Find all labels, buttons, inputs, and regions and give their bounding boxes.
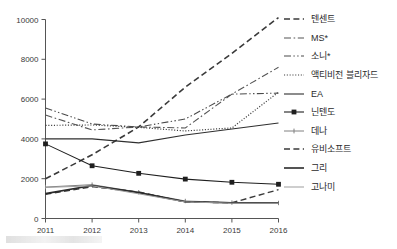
series-7	[46, 187, 279, 203]
legend-swatch-icon	[284, 144, 304, 154]
legend-swatch-icon	[284, 107, 304, 117]
series-marker	[183, 177, 188, 182]
series-3	[46, 92, 279, 131]
legend-label: 소니*	[311, 51, 331, 61]
legend-swatch-icon	[284, 163, 304, 173]
series-marker	[136, 171, 141, 176]
y-tick-label: 4000	[21, 135, 39, 144]
x-tick-label: 2015	[223, 226, 241, 235]
series-line	[46, 18, 279, 179]
legend-swatch-icon	[284, 51, 304, 61]
legend-label: EA	[311, 89, 323, 99]
legend-label: MS*	[311, 33, 328, 43]
y-tick-label: 2000	[21, 175, 39, 184]
legend-swatch-icon	[284, 126, 304, 136]
series-4	[46, 123, 279, 143]
data-series-group	[43, 18, 281, 206]
y-tick-label: 0	[34, 215, 39, 224]
x-tick-label: 2011	[37, 226, 55, 235]
legend-swatch-icon	[284, 70, 304, 80]
series-0	[46, 18, 279, 179]
y-tick-label: 10000	[16, 16, 39, 25]
series-marker	[90, 163, 95, 168]
y-axis: 1000080006000400020000	[16, 16, 45, 224]
legend-item-0[interactable]: 텐센트	[284, 10, 394, 29]
legend-item-8[interactable]: 그리	[284, 159, 394, 178]
legend-label: 유비소프트	[311, 144, 351, 154]
y-tick-label: 8000	[21, 55, 39, 64]
legend-item-6[interactable]: 데나	[284, 122, 394, 141]
legend-label: 액티비전 블리자드	[311, 70, 378, 80]
series-line	[46, 123, 279, 143]
legend-swatch-icon	[284, 33, 304, 43]
chart-legend: 텐센트MS*소니*액티비전 블리자드EA닌텐도데나유비소프트그리고나미	[284, 10, 394, 196]
legend-item-1[interactable]: MS*	[284, 29, 394, 48]
series-9	[46, 186, 279, 204]
legend-item-2[interactable]: 소니*	[284, 47, 394, 66]
legend-item-7[interactable]: 유비소프트	[284, 140, 394, 159]
legend-swatch-icon	[284, 182, 304, 192]
series-8	[46, 185, 279, 203]
x-axis: 201120122013201420152016	[37, 219, 288, 235]
legend-label: 데나	[311, 126, 327, 136]
x-tick-label: 2012	[83, 226, 101, 235]
series-2	[46, 93, 279, 127]
series-marker	[276, 182, 281, 187]
series-line	[46, 93, 279, 127]
legend-label: 텐센트	[311, 14, 335, 24]
legend-label: 닌텐도	[311, 107, 335, 117]
footer-artifact	[6, 236, 102, 243]
series-marker	[43, 141, 48, 146]
legend-item-9[interactable]: 고나미	[284, 177, 394, 196]
x-tick-label: 2014	[176, 226, 194, 235]
series-line	[46, 185, 279, 203]
series-5	[43, 141, 281, 186]
chart-figure: 1000080006000400020000 20112012201320142…	[0, 0, 397, 249]
series-line	[46, 144, 279, 184]
legend-label: 고나미	[311, 182, 335, 192]
x-tick-label: 2016	[270, 226, 288, 235]
y-tick-label: 6000	[21, 95, 39, 104]
x-tick-label: 2013	[130, 226, 148, 235]
legend-item-5[interactable]: 닌텐도	[284, 103, 394, 122]
legend-item-4[interactable]: EA	[284, 84, 394, 103]
legend-swatch-icon	[284, 89, 304, 99]
legend-label: 그리	[311, 163, 327, 173]
legend-item-3[interactable]: 액티비전 블리자드	[284, 66, 394, 85]
series-marker	[230, 180, 235, 185]
legend-swatch-icon	[284, 14, 304, 24]
series-line	[46, 187, 279, 203]
series-line	[46, 186, 279, 204]
series-line	[46, 92, 279, 131]
